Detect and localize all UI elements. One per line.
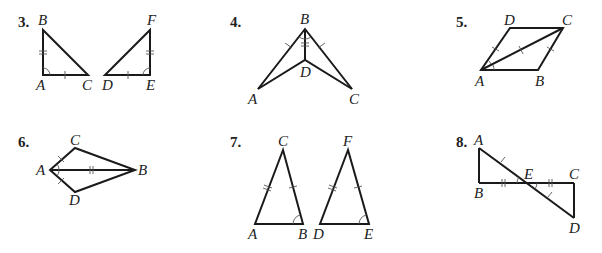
vertex-label-b: B <box>300 11 309 27</box>
vertex-label-c: C <box>82 77 93 93</box>
problem-number: 6. <box>18 134 30 150</box>
tick-mark <box>548 192 552 197</box>
vertex-label-c: C <box>278 133 289 149</box>
angle-arc <box>293 215 300 224</box>
vertex-label-a: A <box>35 77 46 93</box>
vertex-label-d: D <box>312 226 324 242</box>
vertex-label-c: C <box>70 132 81 148</box>
vertex-label-a: A <box>247 91 258 107</box>
triangle-abc <box>43 30 88 75</box>
vertex-label-f: F <box>146 12 157 28</box>
angle-arc <box>43 68 50 75</box>
vertex-label-c: C <box>569 166 580 182</box>
vertex-label-b: B <box>298 226 307 242</box>
triangle-def <box>320 150 369 224</box>
problem-number: 8. <box>456 134 468 150</box>
problem-6: 6. A B C D <box>18 132 147 208</box>
vertex-label-d: D <box>568 220 580 236</box>
problem-4: 4. B D A C <box>230 11 360 107</box>
problem-number: 4. <box>230 14 242 30</box>
problem-number: 7. <box>230 134 242 150</box>
vertex-label-a: A <box>474 73 485 89</box>
geometry-figures: 3. B A C D E F 4. B D A <box>0 0 602 253</box>
vertex-label-b: B <box>535 73 544 89</box>
tick-mark <box>501 157 505 162</box>
vertex-label-e: E <box>523 166 533 182</box>
vertex-label-a: A <box>247 226 258 242</box>
triangle-abc <box>255 150 303 224</box>
vertex-label-e: E <box>145 77 155 93</box>
problem-7: 7. C A B F D E <box>230 133 373 242</box>
problem-3: 3. B A C D E F <box>18 12 157 93</box>
vertex-label-c: C <box>562 12 573 28</box>
vertex-label-b: B <box>138 162 147 178</box>
vertex-label-b: B <box>38 12 47 28</box>
vertex-label-b: B <box>474 185 483 201</box>
vertex-label-a: A <box>473 132 484 148</box>
vertex-label-c: C <box>349 91 360 107</box>
vertex-label-d: D <box>503 12 515 28</box>
vertex-label-e: E <box>363 226 373 242</box>
vertex-label-d: D <box>101 77 113 93</box>
problem-8: 8. A B E C D <box>456 132 580 236</box>
vertex-label-a: A <box>35 162 46 178</box>
angle-arc <box>359 215 366 224</box>
vertex-label-f: F <box>342 133 353 149</box>
problem-number: 3. <box>18 14 30 30</box>
vertex-label-d: D <box>299 64 311 80</box>
vertex-label-d: D <box>68 192 80 208</box>
problem-5: 5. A B C D <box>456 12 573 89</box>
problem-number: 5. <box>456 14 468 30</box>
angle-arc <box>143 68 150 75</box>
triangle-def <box>105 30 150 75</box>
angle-arc <box>488 60 491 64</box>
